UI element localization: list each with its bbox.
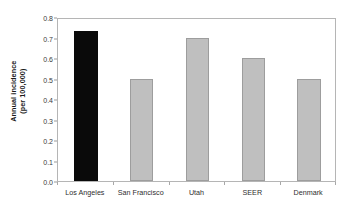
- x-tick-mark: [280, 182, 281, 185]
- bar-san-francisco: [130, 79, 153, 182]
- y-tick-label: 0.5: [43, 76, 53, 83]
- x-tick-label: Denmark: [294, 188, 323, 197]
- y-tick-label: 0.3: [43, 117, 53, 124]
- y-tick-label: 0.7: [43, 35, 53, 42]
- y-tick-label: 0.2: [43, 138, 53, 145]
- y-tick-label: 0.8: [43, 15, 53, 22]
- plot-area: [57, 18, 336, 182]
- y-tick-label: 0.0: [43, 179, 53, 186]
- y-tick-label: 0.4: [43, 97, 53, 104]
- x-tick-mark: [113, 182, 114, 185]
- bar-denmark: [297, 79, 320, 182]
- y-tick-label: 0.1: [43, 158, 53, 165]
- x-tick-mark: [169, 182, 170, 185]
- x-tick-mark: [335, 182, 336, 185]
- y-axis-title: Annual incidence (per 100,000): [0, 0, 38, 182]
- x-tick-label: Los Angeles: [65, 188, 104, 197]
- bar-seer: [242, 58, 265, 181]
- x-axis-tick-marks: [57, 182, 336, 187]
- bar-chart: Annual incidence (per 100,000) 0.00.10.2…: [0, 0, 348, 212]
- bars-layer: [58, 19, 335, 181]
- x-tick-label: San Francisco: [118, 188, 164, 197]
- x-tick-label: Utah: [189, 188, 204, 197]
- y-axis-title-line-2: (per 100,000): [19, 60, 28, 121]
- y-axis-ticks: 0.00.10.20.30.40.50.60.70.8: [34, 18, 57, 182]
- bar-utah: [186, 38, 209, 182]
- x-axis-labels: Los AngelesSan FranciscoUtahSEERDenmark: [57, 188, 336, 202]
- y-tick-label: 0.6: [43, 56, 53, 63]
- bar-los-angeles: [74, 31, 97, 181]
- x-tick-label: SEER: [243, 188, 263, 197]
- x-tick-mark: [57, 182, 58, 185]
- x-tick-mark: [224, 182, 225, 185]
